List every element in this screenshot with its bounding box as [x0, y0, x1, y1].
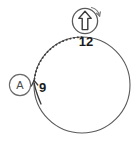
- diagram-canvas: A 12 9: [0, 0, 138, 145]
- point-a-label: A: [16, 79, 24, 91]
- geometry-diagram-svg: A 12 9: [0, 0, 138, 145]
- arc-dotted-label: 12: [79, 34, 93, 49]
- arc-solid-label: 9: [39, 80, 46, 95]
